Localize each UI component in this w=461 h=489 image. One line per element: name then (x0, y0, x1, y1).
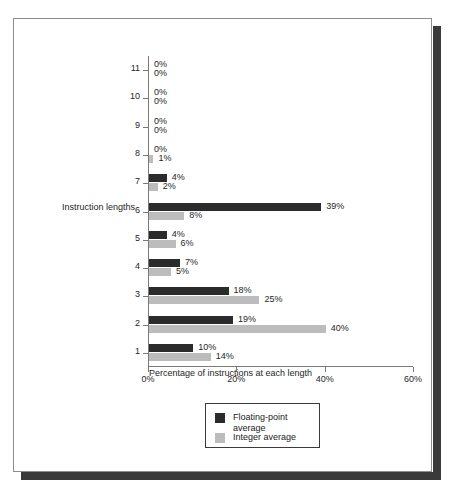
bar-value-label: 4% (172, 173, 185, 181)
y-axis-tick-label: 2 (135, 318, 140, 328)
bar-fp-1 (149, 344, 193, 352)
bar-value-label: 10% (198, 343, 216, 351)
bar-value-label: 0% (154, 117, 167, 125)
bar-int-8 (149, 155, 153, 163)
bar-value-label: 40% (331, 324, 349, 332)
bar-fp-3 (149, 287, 229, 295)
bar-fp-2 (149, 316, 233, 324)
chart-legend: Floating-point averageInteger average (205, 403, 320, 448)
bar-int-3 (149, 296, 259, 304)
y-axis-tick (143, 296, 148, 297)
y-axis-tick (143, 70, 148, 71)
bar-int-2 (149, 325, 326, 333)
bar-fp-5 (149, 231, 167, 239)
bar-value-label: 39% (326, 202, 344, 210)
y-axis-tick-label: 11 (131, 63, 140, 73)
y-axis-tick-label: 5 (135, 233, 140, 243)
bar-int-6 (149, 212, 184, 220)
y-axis-tick-label: 9 (135, 120, 140, 130)
figure-shadow-right (433, 26, 441, 480)
bar-value-label: 5% (176, 267, 189, 275)
y-axis-tick-label: 4 (135, 261, 140, 271)
bar-value-label: 19% (238, 315, 256, 323)
bar-value-label: 4% (172, 230, 185, 238)
y-axis-tick (143, 268, 148, 269)
y-axis-tick (143, 155, 148, 156)
bar-int-7 (149, 183, 158, 191)
bar-value-label: 0% (154, 88, 167, 96)
y-axis-tick (143, 183, 148, 184)
bar-value-label: 2% (163, 182, 176, 190)
y-axis-tick (143, 353, 148, 354)
bar-value-label: 18% (234, 286, 252, 294)
y-axis-title: Instruction lengths (62, 202, 135, 212)
y-axis-tick-label: 8 (135, 148, 140, 158)
y-axis-tick-label: 1 (135, 346, 140, 356)
legend-swatch-int (215, 433, 225, 443)
bar-value-label: 0% (154, 69, 167, 77)
y-axis-tick-label: 7 (135, 176, 140, 186)
bar-value-label: 0% (154, 60, 167, 68)
plot-area: 1234567891011 0%20%40%60% 10%14%19%40%18… (148, 56, 413, 367)
bar-value-label: 1% (158, 154, 171, 162)
bar-int-5 (149, 240, 176, 248)
bar-value-label: 0% (154, 126, 167, 134)
legend-label: Floating-point average (233, 412, 288, 434)
x-axis-title: Percentage of instructions at each lengt… (0, 368, 461, 378)
legend-label: Integer average (233, 432, 296, 443)
figure-shadow-bottom (21, 472, 441, 480)
bar-value-label: 14% (216, 352, 234, 360)
y-axis-tick (143, 127, 148, 128)
y-axis-tick-label: 10 (130, 91, 140, 101)
bar-value-label: 8% (189, 211, 202, 219)
bar-int-1 (149, 353, 211, 361)
bar-value-label: 7% (185, 258, 198, 266)
bar-value-label: 25% (264, 295, 282, 303)
y-axis-tick (143, 98, 148, 99)
y-axis-tick (143, 325, 148, 326)
bar-fp-6 (149, 203, 321, 211)
bar-value-label: 6% (181, 239, 194, 247)
bar-value-label: 0% (154, 97, 167, 105)
legend-item: Floating-point average (215, 412, 288, 434)
y-axis-tick (143, 212, 148, 213)
legend-item: Integer average (215, 432, 296, 443)
y-axis-tick-label: 3 (135, 289, 140, 299)
y-axis-tick (143, 240, 148, 241)
bar-value-label: 0% (154, 145, 167, 153)
y-axis-tick-label: 6 (135, 205, 140, 215)
bar-int-4 (149, 268, 171, 276)
legend-swatch-fp (215, 413, 225, 423)
x-axis-line (148, 366, 413, 367)
